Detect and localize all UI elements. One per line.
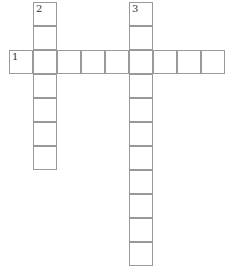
letter-input[interactable]: [34, 75, 56, 97]
crossword-cell[interactable]: [177, 50, 201, 74]
crossword-cell[interactable]: [33, 26, 57, 50]
letter-input[interactable]: [154, 51, 176, 73]
letter-input[interactable]: [106, 51, 128, 73]
letter-input[interactable]: [130, 195, 152, 217]
crossword-cell[interactable]: [201, 50, 225, 74]
crossword-cell[interactable]: [129, 194, 153, 218]
crossword-cell[interactable]: [33, 50, 57, 74]
crossword-cell[interactable]: [129, 122, 153, 146]
letter-input[interactable]: [130, 99, 152, 121]
crossword-cell[interactable]: [129, 170, 153, 194]
letter-input[interactable]: [10, 51, 32, 73]
crossword-cell[interactable]: [81, 50, 105, 74]
letter-input[interactable]: [130, 3, 152, 25]
letter-input[interactable]: [130, 243, 152, 265]
crossword-cell[interactable]: 3: [129, 2, 153, 26]
letter-input[interactable]: [34, 3, 56, 25]
letter-input[interactable]: [130, 219, 152, 241]
letter-input[interactable]: [58, 51, 80, 73]
letter-input[interactable]: [130, 27, 152, 49]
letter-input[interactable]: [34, 99, 56, 121]
crossword-cell[interactable]: [129, 242, 153, 266]
crossword-cell[interactable]: [33, 122, 57, 146]
letter-input[interactable]: [34, 147, 56, 169]
letter-input[interactable]: [34, 123, 56, 145]
letter-input[interactable]: [34, 51, 56, 73]
crossword-cell[interactable]: [129, 26, 153, 50]
crossword-cell[interactable]: [129, 146, 153, 170]
letter-input[interactable]: [130, 75, 152, 97]
letter-input[interactable]: [130, 147, 152, 169]
crossword-cell[interactable]: [33, 98, 57, 122]
crossword-cell[interactable]: [33, 146, 57, 170]
crossword-cell[interactable]: [129, 74, 153, 98]
crossword-cell[interactable]: [153, 50, 177, 74]
crossword-cell[interactable]: [57, 50, 81, 74]
crossword-cell[interactable]: 2: [33, 2, 57, 26]
letter-input[interactable]: [202, 51, 224, 73]
crossword-cell[interactable]: [129, 98, 153, 122]
letter-input[interactable]: [130, 171, 152, 193]
crossword-cell[interactable]: [129, 50, 153, 74]
crossword-cell[interactable]: [129, 218, 153, 242]
letter-input[interactable]: [82, 51, 104, 73]
crossword-cell[interactable]: [33, 74, 57, 98]
crossword-cell[interactable]: [105, 50, 129, 74]
letter-input[interactable]: [34, 27, 56, 49]
letter-input[interactable]: [178, 51, 200, 73]
crossword-cell[interactable]: 1: [9, 50, 33, 74]
letter-input[interactable]: [130, 51, 152, 73]
letter-input[interactable]: [130, 123, 152, 145]
